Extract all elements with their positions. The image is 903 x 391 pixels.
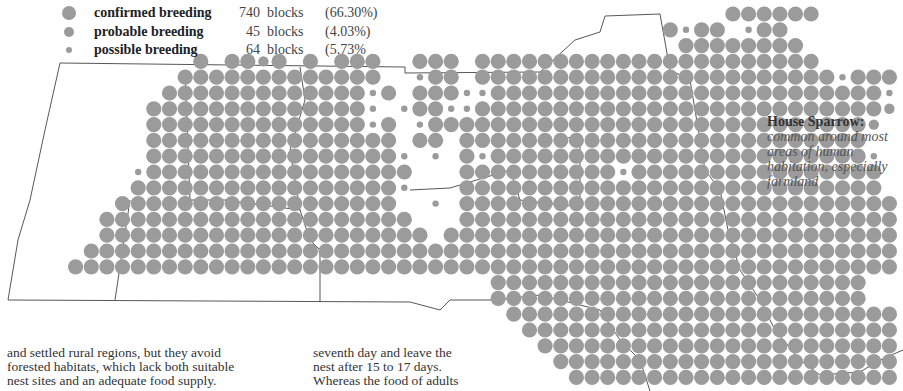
breeding-dot [459, 149, 474, 164]
legend-unit: blocks [267, 41, 325, 60]
breeding-dot [272, 212, 287, 227]
breeding-dot [491, 212, 506, 227]
breeding-dot [162, 164, 177, 179]
breeding-dot [616, 149, 631, 164]
breeding-dot [115, 243, 130, 258]
breeding-dot [757, 354, 772, 369]
breeding-dot [631, 54, 646, 69]
breeding-dot [647, 54, 662, 69]
breeding-dots [68, 6, 897, 385]
breeding-dot [851, 70, 866, 85]
breeding-dot [569, 370, 584, 385]
breeding-dot [694, 164, 709, 179]
breeding-dot [506, 133, 521, 148]
breeding-dot [193, 228, 208, 243]
breeding-dot [569, 338, 584, 353]
breeding-dot [225, 117, 240, 132]
breeding-dot [522, 243, 537, 258]
breeding-dot [663, 164, 678, 179]
breeding-dot [585, 338, 600, 353]
breeding-dot [788, 338, 803, 353]
breeding-dot [663, 307, 678, 322]
breeding-dot [256, 85, 271, 100]
breeding-dot [851, 259, 866, 274]
breeding-dot [647, 370, 662, 385]
breeding-dot [256, 101, 271, 116]
breeding-dot [569, 117, 584, 132]
breeding-dot [428, 101, 443, 116]
breeding-dot [600, 101, 615, 116]
breeding-dot [819, 291, 834, 306]
breeding-dot [553, 275, 568, 290]
breeding-dot [538, 196, 553, 211]
breeding-dot [538, 54, 553, 69]
breeding-dot [710, 164, 725, 179]
breeding-dot [835, 228, 850, 243]
breeding-dot [600, 338, 615, 353]
breeding-dot [694, 212, 709, 227]
breeding-dot [663, 180, 678, 195]
breeding-dot [178, 133, 193, 148]
breeding-dot [710, 338, 725, 353]
breeding-dot [788, 85, 803, 100]
breeding-dot [616, 180, 631, 195]
breeding-dot [553, 164, 568, 179]
breeding-dot [459, 259, 474, 274]
breeding-dot [569, 149, 584, 164]
breeding-dot [178, 70, 193, 85]
breeding-dot [397, 212, 412, 227]
breeding-dot [788, 6, 803, 21]
breeding-dot [804, 259, 819, 274]
breeding-dot [694, 259, 709, 274]
breeding-dot [412, 228, 427, 243]
breeding-dot [835, 259, 850, 274]
breeding-dot [491, 228, 506, 243]
breeding-dot [193, 133, 208, 148]
breeding-dot [757, 259, 772, 274]
breeding-dot [694, 117, 709, 132]
breeding-dot [886, 90, 892, 96]
breeding-dot [506, 54, 521, 69]
breeding-dot [318, 228, 333, 243]
breeding-dot [522, 228, 537, 243]
breeding-dot [788, 228, 803, 243]
breeding-dot [866, 307, 881, 322]
breeding-dot [710, 54, 725, 69]
breeding-dot [725, 85, 740, 100]
breeding-dot [240, 196, 255, 211]
breeding-dot [600, 133, 615, 148]
breeding-dot [479, 153, 485, 159]
breeding-dot [162, 228, 177, 243]
breeding-dot [553, 149, 568, 164]
breeding-dot [178, 180, 193, 195]
breeding-dot [741, 259, 756, 274]
breeding-dot [788, 70, 803, 85]
breeding-dot [178, 212, 193, 227]
breeding-dot [569, 212, 584, 227]
breeding-dot [178, 149, 193, 164]
breeding-dot [585, 101, 600, 116]
breeding-dot [209, 85, 224, 100]
breeding-dot [616, 85, 631, 100]
breeding-dot [225, 101, 240, 116]
breeding-dot [193, 180, 208, 195]
breeding-dot [616, 54, 631, 69]
breeding-dot [741, 354, 756, 369]
breeding-dot [193, 259, 208, 274]
breeding-dot [631, 85, 646, 100]
breeding-dot [491, 85, 506, 100]
breeding-dot [851, 291, 866, 306]
breeding-dot [663, 275, 678, 290]
breeding-dot [788, 259, 803, 274]
breeding-dot [432, 153, 438, 159]
breeding-dot [616, 117, 631, 132]
breeding-dot [569, 133, 584, 148]
breeding-dot [209, 164, 224, 179]
breeding-dot [585, 164, 600, 179]
breeding-dot [678, 54, 693, 69]
breeding-dot [882, 196, 897, 211]
breeding-dot [678, 259, 693, 274]
breeding-dot [600, 117, 615, 132]
breeding-dot [193, 196, 208, 211]
breeding-dot [522, 101, 537, 116]
